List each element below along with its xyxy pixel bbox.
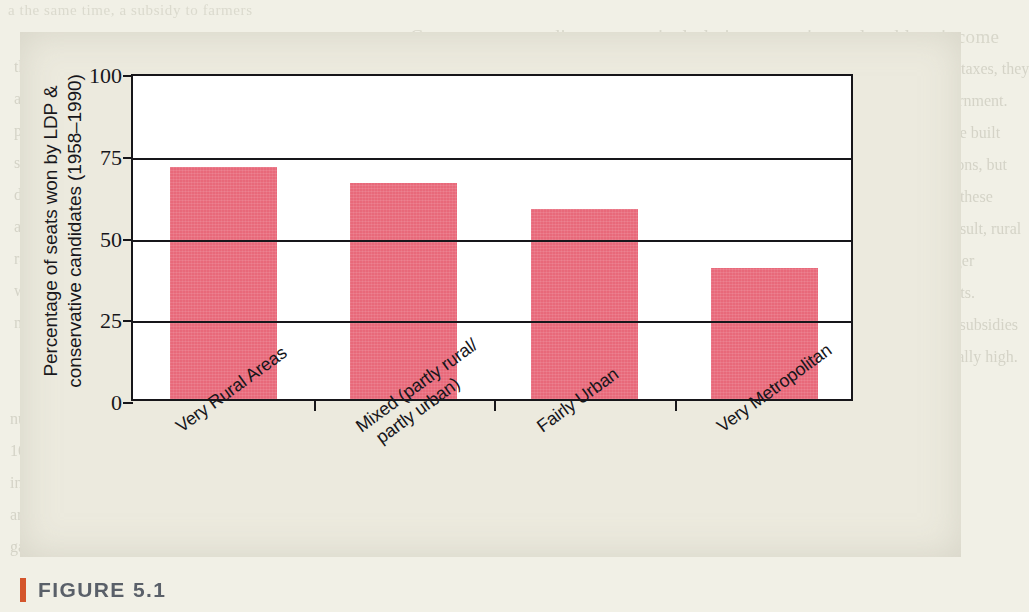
y-axis-label: Percentage of seats won by LDP & conserv… <box>39 51 87 411</box>
figure-panel: Percentage of seats won by LDP & conserv… <box>20 32 961 557</box>
gridline <box>133 158 851 160</box>
x-axis-tick-labels: Very Rural AreasMixed (partly rural/ par… <box>131 404 853 554</box>
plot-area: 0255075100 <box>131 74 853 401</box>
y-axis-tick-mark <box>123 75 133 77</box>
y-axis-tick-label: 100 <box>89 63 122 89</box>
y-axis-tick-mark <box>123 157 133 159</box>
y-axis-tick-mark <box>123 320 133 322</box>
y-axis-tick-label: 0 <box>111 390 122 416</box>
bleed-line: a the same time, a subsidy to farmers <box>8 2 253 19</box>
caption-label: FIGURE 5.1 <box>38 578 166 602</box>
bar-texture <box>531 209 638 399</box>
y-axis-tick-mark <box>123 239 133 241</box>
bar-series <box>133 76 851 399</box>
bar-chart: Percentage of seats won by LDP & conserv… <box>20 32 961 557</box>
y-axis-tick-label: 25 <box>100 308 122 334</box>
gridline <box>133 321 851 323</box>
y-axis-tick-label: 75 <box>100 145 122 171</box>
figure-caption: FIGURE 5.1 <box>20 578 166 602</box>
gridline <box>133 240 851 242</box>
bar <box>531 209 638 399</box>
caption-accent-rule <box>20 578 26 602</box>
y-axis-tick-label: 50 <box>100 227 122 253</box>
